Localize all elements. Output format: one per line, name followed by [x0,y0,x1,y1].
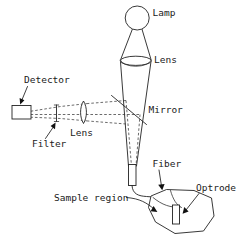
mirror-label: Mirror [149,104,184,115]
fiber-leader-line [159,170,162,186]
lamp-icon [125,6,149,30]
optical-diagram-figure: Lamp Lens Mirror [0,0,248,245]
sample-region-label: Sample region [54,192,128,203]
detector-icon [12,106,31,120]
sample-region-icon [149,190,215,234]
fiber-label: Fiber [153,158,182,169]
beam-edge-lower-left [121,62,129,166]
condenser-lens-label: Lens [154,54,177,65]
detector-leader [20,87,28,105]
beam-edge-upper-left [121,28,134,61]
optical-setup-diagram: Lamp Lens Mirror [0,0,248,245]
mirror-icon [112,96,147,125]
ray-lower-right-seg [88,121,126,124]
fiber-coupler-assembly [129,165,137,186]
filter-leader-line [46,126,55,139]
beam-edge-upper-right [142,28,152,60]
filter-label: Filter [32,138,67,149]
collection-lens-icon [81,101,87,124]
detector-leader-line [22,87,28,102]
filter-leader [46,122,56,138]
fiber-coupler-icon [129,165,137,186]
collection-lens-label: Lens [70,127,93,138]
lamp-label: Lamp [153,7,176,18]
excitation-beam-cone [121,28,152,167]
collection-lens-assembly [81,101,87,124]
detector-assembly [12,106,31,120]
filter-arrowhead-icon [51,122,56,129]
lamp-assembly [125,6,149,30]
mirror-assembly [112,96,147,125]
optrode-label: Optrode [196,182,236,193]
sample-region-assembly [149,190,215,234]
fiber-arrowhead-icon [158,184,164,190]
detector-label: Detector [24,74,70,85]
fiber-leader [158,170,164,190]
optrode-assembly [173,205,180,224]
optrode-icon [173,205,180,224]
condenser-lens-assembly [120,56,151,66]
